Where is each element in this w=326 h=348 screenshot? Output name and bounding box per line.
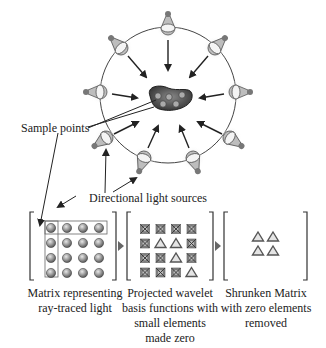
sphere-icon: [94, 223, 103, 232]
caption-line: with zero elements: [214, 301, 318, 316]
sample-points-label: Sample points: [21, 122, 89, 135]
caption-line: made zero: [113, 331, 227, 346]
zeroed-element-icon: [141, 225, 150, 234]
caption-line: removed: [214, 316, 318, 331]
sphere-icon: [46, 223, 55, 232]
transform-arrow-2: [215, 241, 221, 251]
sphere-icon: [78, 238, 87, 247]
zeroed-element-icon: [187, 254, 196, 263]
sphere-icon: [46, 268, 55, 277]
matrix-2-caption: Projected wavelet basis functions with s…: [113, 286, 227, 346]
zeroed-element-icon: [156, 268, 165, 277]
sphere-icon: [62, 238, 71, 247]
zeroed-element-icon: [141, 268, 150, 277]
triangle-icon: [155, 239, 166, 248]
zeroed-element-icon: [141, 239, 150, 248]
matrix-3-caption: Shrunken Matrix with zero elements remov…: [214, 286, 318, 331]
sphere-icon: [46, 238, 55, 247]
sphere-icon: [62, 253, 71, 262]
sphere-icon: [62, 223, 71, 232]
matrix-shrunken: [224, 212, 307, 280]
matrix-wavelet: [127, 212, 213, 280]
sphere-icon: [62, 268, 71, 277]
triangle-icon: [253, 232, 264, 241]
triangle-icon: [171, 239, 182, 248]
triangle-icon: [268, 246, 279, 255]
triangle-icon: [253, 246, 264, 255]
zeroed-element-icon: [141, 254, 150, 263]
directional-light-sources-label: Directional light sources: [89, 192, 207, 205]
matrix-ray-traced: [30, 212, 116, 280]
triangle-icon: [186, 268, 197, 277]
sphere-icon: [46, 253, 55, 262]
sphere-icon: [94, 268, 103, 277]
transform-arrow-1: [118, 241, 124, 251]
caption-line: small elements: [113, 316, 227, 331]
scene-object: [149, 86, 192, 110]
triangle-icon: [171, 253, 182, 262]
zeroed-element-icon: [156, 254, 165, 263]
sphere-icon: [78, 223, 87, 232]
sphere-icon: [94, 253, 103, 262]
triangle-icon: [268, 232, 279, 241]
caption-line: Shrunken Matrix: [214, 286, 318, 301]
zeroed-element-icon: [172, 225, 181, 234]
caption-line: basis functions with: [113, 301, 227, 316]
sphere-icon: [78, 253, 87, 262]
sphere-icon: [78, 268, 87, 277]
zeroed-element-icon: [187, 239, 196, 248]
zeroed-element-icon: [187, 225, 196, 234]
sphere-icon: [94, 238, 103, 247]
zeroed-element-icon: [156, 225, 165, 234]
zeroed-element-icon: [172, 268, 181, 277]
caption-line: Projected wavelet: [113, 286, 227, 301]
